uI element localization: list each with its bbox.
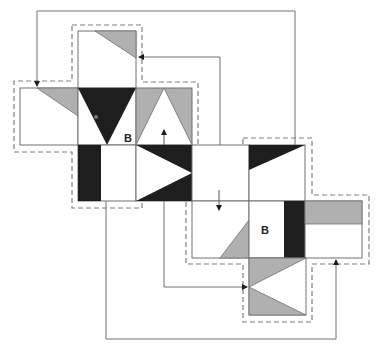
- lower-net-top-middle-face: [192, 145, 249, 201]
- lower-net-top-face: [249, 145, 305, 201]
- upper-net-bottom-face: [78, 145, 136, 201]
- lower-net-center-face: [249, 201, 305, 258]
- label-b-lower: B: [261, 224, 269, 236]
- upper-net-left-face: [20, 88, 78, 145]
- cube-net-diagram: [0, 0, 383, 352]
- lower-net-right-face: [305, 201, 362, 258]
- label-b-upper: B: [124, 132, 132, 144]
- upper-net-top-face: [78, 31, 136, 88]
- lower-net-bottom-face: [249, 258, 306, 315]
- lower-net-left-face: [192, 201, 249, 258]
